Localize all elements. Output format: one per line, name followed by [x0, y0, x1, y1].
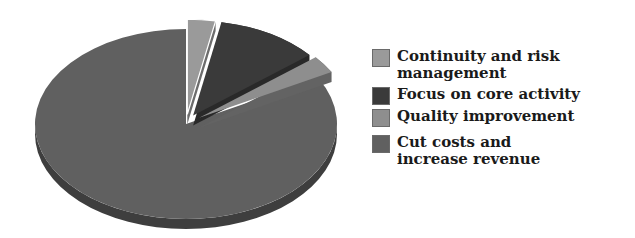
- legend-item-continuity: Continuity and risk management: [372, 48, 632, 82]
- legend-swatch-focus: [372, 87, 390, 105]
- legend-swatch-cut-costs: [372, 135, 390, 153]
- pie-chart: [0, 0, 380, 238]
- legend-swatch-continuity: [372, 49, 390, 67]
- legend-label-continuity: Continuity and risk management: [397, 48, 560, 82]
- legend-item-focus: Focus on core activity: [372, 86, 632, 105]
- chart-legend: Continuity and risk management Focus on …: [372, 48, 632, 172]
- legend-label-focus: Focus on core activity: [397, 86, 580, 103]
- legend-label-quality: Quality improvement: [397, 108, 574, 125]
- legend-item-quality: Quality improvement: [372, 108, 632, 127]
- legend-swatch-quality: [372, 109, 390, 127]
- legend-item-cut-costs: Cut costs and increase revenue: [372, 134, 632, 168]
- legend-label-cut-costs: Cut costs and increase revenue: [397, 134, 540, 168]
